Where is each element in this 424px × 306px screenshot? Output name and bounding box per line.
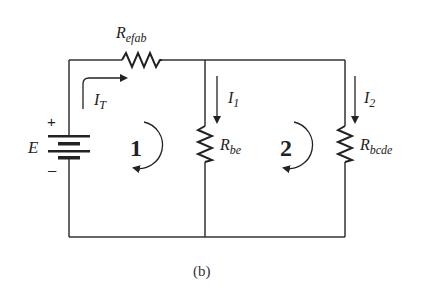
- battery-plus-sign: +: [47, 113, 56, 130]
- resistor-r-be-symbol: [198, 126, 212, 162]
- resistor-r-bcde-label: Rbcde: [359, 136, 393, 157]
- resistor-r-be-label: Rbe: [219, 136, 242, 157]
- battery-short-plate-1: [58, 142, 80, 146]
- current-i2-label: I2: [363, 89, 375, 110]
- battery-label: E: [27, 138, 39, 157]
- figure-caption: (b): [193, 263, 211, 280]
- circuit-diagram: Refab Rbe Rbcde E + – IT I1 I2 1 2 (b): [0, 0, 424, 306]
- battery-symbol: [48, 135, 90, 160]
- wires: [69, 60, 345, 237]
- loop-2-label: 2: [280, 135, 292, 161]
- resistor-r-bcde-symbol: [338, 126, 352, 162]
- resistor-r-efab-symbol: [122, 53, 162, 67]
- battery-long-plate-2: [48, 150, 90, 153]
- resistor-r-efab-label: Refab: [115, 24, 146, 45]
- battery-minus-sign: –: [48, 161, 57, 178]
- battery-short-plate-2: [58, 156, 80, 160]
- battery-long-plate-1: [48, 135, 90, 138]
- loop-1-label: 1: [130, 135, 142, 161]
- current-i1-label: I1: [227, 89, 239, 110]
- current-it-label: IT: [93, 91, 107, 112]
